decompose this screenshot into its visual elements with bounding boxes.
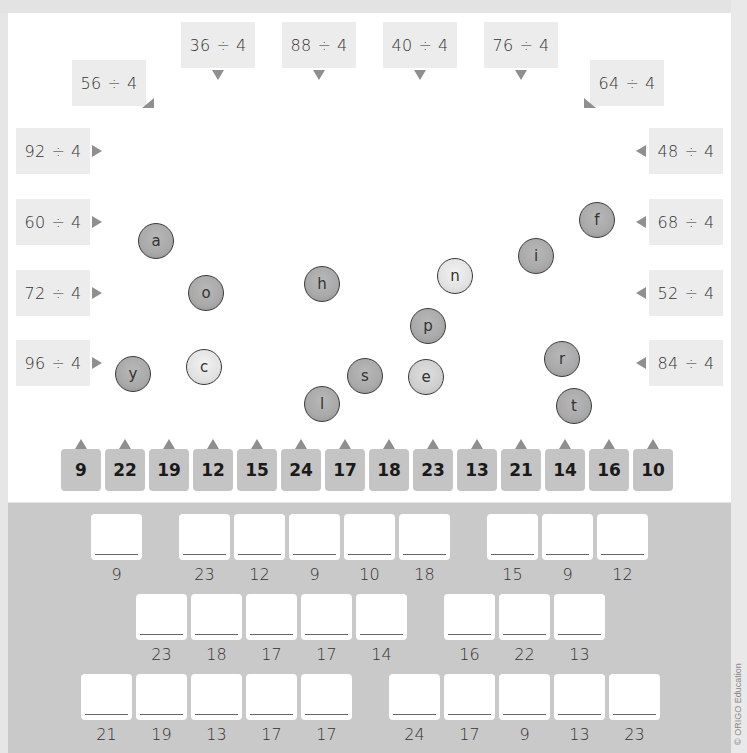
answer-input-box[interactable] (597, 514, 648, 560)
answer-code-label: 21 (96, 725, 116, 744)
right-arrow-icon (92, 357, 102, 369)
letter-bubble-e[interactable]: e (408, 359, 444, 395)
answer-input-box[interactable] (289, 514, 340, 560)
answer-code-label: 18 (206, 645, 226, 664)
answer-input-box[interactable] (246, 594, 297, 640)
answer-cell: 13 (191, 674, 242, 744)
answer-input-box[interactable] (542, 514, 593, 560)
answer-code-label: 24 (404, 725, 424, 744)
question-box-q36: 36 ÷ 4 (181, 22, 255, 68)
letter-bubble-t[interactable]: t (556, 388, 592, 424)
answer-input-box[interactable] (554, 674, 605, 720)
answer-input-box[interactable] (246, 674, 297, 720)
copyright-text: © ORIGO Education (733, 663, 743, 745)
number-tile: 23 (413, 449, 453, 491)
number-tile-value: 13 (457, 449, 497, 491)
answer-input-box[interactable] (179, 514, 230, 560)
answer-word: 162213 (444, 594, 605, 664)
letter-bubble-r[interactable]: r (544, 341, 580, 377)
answer-cell: 12 (234, 514, 285, 584)
letter-bubble-y[interactable]: y (115, 356, 151, 392)
question-box-q76: 76 ÷ 4 (484, 22, 558, 68)
question-box-q88: 88 ÷ 4 (282, 22, 356, 68)
question-box-q56: 56 ÷ 4 (72, 60, 146, 106)
answer-input-box[interactable] (191, 594, 242, 640)
left-arrow-icon (636, 357, 646, 369)
answer-cell: 16 (444, 594, 495, 664)
question-box-q60: 60 ÷ 4 (16, 199, 90, 245)
answer-input-box[interactable] (399, 514, 450, 560)
answer-input-box[interactable] (81, 674, 132, 720)
letter-bubble-a[interactable]: a (138, 223, 174, 259)
answer-input-box[interactable] (609, 674, 660, 720)
answer-input-box[interactable] (91, 514, 142, 560)
answer-input-box[interactable] (301, 674, 352, 720)
number-tile: 13 (457, 449, 497, 491)
down-arrow-icon (313, 70, 325, 80)
answer-cell: 17 (301, 674, 352, 744)
up-arrow-icon (119, 439, 131, 449)
answer-code-label: 19 (151, 725, 171, 744)
answer-word: 2318171714 (136, 594, 407, 664)
letter-bubble-l[interactable]: l (304, 386, 340, 422)
answer-cell: 13 (554, 674, 605, 744)
letter-bubble-i[interactable]: i (518, 238, 554, 274)
answer-code-label: 9 (562, 565, 572, 584)
question-box-q64: 64 ÷ 4 (590, 60, 664, 106)
number-tile-value: 14 (545, 449, 585, 491)
letter-bubble-n[interactable]: n (437, 258, 473, 294)
answer-word: 2119131717 (81, 674, 352, 744)
letter-bubble-h[interactable]: h (304, 266, 340, 302)
answer-input-box[interactable] (499, 674, 550, 720)
answer-input-box[interactable] (234, 514, 285, 560)
letter-bubble-c[interactable]: c (186, 349, 222, 385)
answer-cell: 23 (609, 674, 660, 744)
number-tile: 17 (325, 449, 365, 491)
answer-row: 2318171714162213 (136, 594, 605, 664)
letter-bubble-o[interactable]: o (188, 275, 224, 311)
letter-bubble-p[interactable]: p (410, 308, 446, 344)
answer-input-box[interactable] (191, 674, 242, 720)
number-tile: 14 (545, 449, 585, 491)
letter-bubble-f[interactable]: f (579, 202, 615, 238)
answer-input-box[interactable] (136, 594, 187, 640)
answer-code-label: 16 (459, 645, 479, 664)
number-tile: 19 (149, 449, 189, 491)
answer-cell: 18 (399, 514, 450, 584)
answer-code-label: 18 (414, 565, 434, 584)
answer-input-box[interactable] (554, 594, 605, 640)
answer-input-box[interactable] (344, 514, 395, 560)
number-tile: 15 (237, 449, 277, 491)
answer-cell: 23 (136, 594, 187, 664)
answer-input-box[interactable] (356, 594, 407, 640)
number-tile-value: 15 (237, 449, 277, 491)
answer-code-label: 14 (371, 645, 391, 664)
number-tile-value: 23 (413, 449, 453, 491)
answer-input-box[interactable] (301, 594, 352, 640)
left-arrow-icon (636, 287, 646, 299)
answer-code-label: 9 (309, 565, 319, 584)
question-box-q84: 84 ÷ 4 (649, 340, 723, 386)
answer-row: 923129101815912 (91, 514, 648, 584)
answer-input-box[interactable] (389, 674, 440, 720)
answer-input-box[interactable] (136, 674, 187, 720)
number-tile: 12 (193, 449, 233, 491)
right-margin (731, 0, 747, 753)
number-tile-value: 22 (105, 449, 145, 491)
up-arrow-icon (427, 439, 439, 449)
answer-input-box[interactable] (444, 674, 495, 720)
letter-bubble-s[interactable]: s (347, 358, 383, 394)
answer-code-label: 23 (151, 645, 171, 664)
answer-code-label: 13 (569, 725, 589, 744)
answer-input-box[interactable] (499, 594, 550, 640)
up-arrow-icon (471, 439, 483, 449)
answer-code-label: 17 (316, 645, 336, 664)
answer-cell: 22 (499, 594, 550, 664)
answer-code-label: 13 (569, 645, 589, 664)
answer-input-box[interactable] (444, 594, 495, 640)
up-arrow-icon (647, 439, 659, 449)
number-tile-value: 10 (633, 449, 673, 491)
up-arrow-icon (383, 439, 395, 449)
answer-input-box[interactable] (487, 514, 538, 560)
number-tile: 21 (501, 449, 541, 491)
